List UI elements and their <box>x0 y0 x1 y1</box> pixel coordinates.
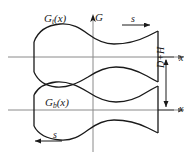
label-curve-bottom: Gb(x) <box>45 97 69 108</box>
shape-top-curve <box>34 24 158 87</box>
label-curve-bottom-subscript: b <box>53 101 57 110</box>
label-dimension-dh: D+H <box>156 47 166 68</box>
diagram-canvas <box>0 0 196 164</box>
label-axis-g: G <box>95 12 103 23</box>
label-axis-x-top: x <box>179 53 183 63</box>
label-curve-bottom-base: G <box>45 96 53 108</box>
label-direction-bottom: s <box>53 130 57 140</box>
label-axis-x-bottom: x <box>179 104 183 114</box>
technical-diagram: Gt(x) Gb(x) G x x s s D+H <box>0 0 196 164</box>
label-curve-top-argument: (x) <box>54 12 66 24</box>
label-curve-top-subscript: t <box>52 17 54 26</box>
label-curve-top: Gt(x) <box>44 13 66 24</box>
label-curve-bottom-argument: (x) <box>57 96 69 108</box>
label-curve-top-base: G <box>44 12 52 24</box>
axis-g-vertical <box>90 14 96 152</box>
label-direction-top: s <box>131 14 135 24</box>
